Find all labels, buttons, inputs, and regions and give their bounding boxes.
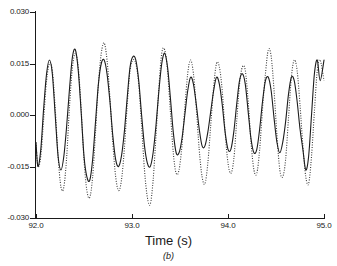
- x-tick-mark: [132, 214, 133, 219]
- y-tick-label: 0.030: [10, 7, 29, 16]
- x-tick-label: 94.0: [221, 221, 236, 230]
- y-axis-line: [35, 11, 36, 219]
- y-tick-label: -0.030: [8, 213, 29, 222]
- x-tick-mark: [324, 214, 325, 219]
- x-tick-label: 92.0: [29, 221, 44, 230]
- y-tick-mark: [30, 167, 35, 168]
- x-axis-line: [35, 218, 325, 219]
- x-axis-title: Time (s): [0, 233, 337, 248]
- y-tick-label: 0.015: [10, 59, 29, 68]
- y-tick-mark: [30, 12, 35, 13]
- figure-panel: 0.0300.0150.000-0.015-0.030 92.093.094.0…: [0, 0, 337, 266]
- chart-canvas: [36, 12, 324, 218]
- x-tick-mark: [36, 214, 37, 219]
- plot-area: [36, 12, 324, 218]
- figure-caption: (b): [0, 251, 337, 261]
- dotted-trace: [36, 43, 324, 205]
- y-tick-mark: [30, 218, 35, 219]
- x-tick-label: 93.0: [125, 221, 140, 230]
- y-tick-label: 0.000: [10, 110, 29, 119]
- x-tick-label: 95.0: [317, 221, 332, 230]
- y-tick-label: -0.015: [8, 162, 29, 171]
- y-tick-mark: [30, 64, 35, 65]
- x-tick-mark: [228, 214, 229, 219]
- y-tick-mark: [30, 115, 35, 116]
